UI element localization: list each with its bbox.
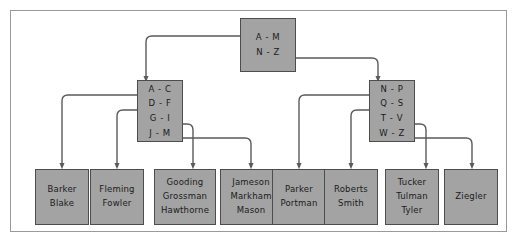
root-key-0: A - M (256, 30, 281, 45)
right-key-1: Q - S (380, 96, 404, 111)
left-key-1: D - F (149, 96, 172, 111)
left-key-3: J - M (149, 126, 170, 141)
right-key-0: N - P (381, 82, 404, 97)
internal-node-right[interactable]: N - P Q - S T - V W - Z (369, 80, 415, 142)
root-node[interactable]: A - M N - Z (240, 18, 296, 72)
leaf3-entry-2: Hawthorne (161, 204, 209, 218)
leaf4-entry-1: Markham (230, 190, 271, 204)
leaf4-entry-2: Mason (237, 204, 266, 218)
leaf1-entry-1: Blake (50, 197, 74, 211)
leaf5-entry-1: Portman (280, 197, 317, 211)
leaf-node-2[interactable]: Fleming Fowler (90, 169, 144, 225)
btree-diagram: A - M N - Z A - C D - F G - I J - M N - … (0, 0, 520, 248)
leaf-node-6[interactable]: Roberts Smith (324, 169, 378, 225)
leaf6-entry-1: Smith (338, 197, 364, 211)
leaf-node-3[interactable]: Gooding Grossman Hawthorne (154, 169, 216, 225)
leaf4-entry-0: Jameson (232, 176, 270, 190)
leaf2-entry-1: Fowler (102, 197, 131, 211)
root-key-1: N - Z (256, 45, 280, 60)
leaf1-entry-0: Barker (47, 183, 76, 197)
leaf7-entry-0: Tucker (398, 176, 427, 190)
leaf-node-5[interactable]: Parker Portman (272, 169, 326, 225)
leaf7-entry-2: Tyler (402, 204, 423, 218)
leaf8-entry-0: Ziegler (455, 190, 486, 204)
leaf5-entry-0: Parker (285, 183, 313, 197)
leaf2-entry-0: Fleming (99, 183, 134, 197)
internal-node-left[interactable]: A - C D - F G - I J - M (137, 80, 183, 142)
leaf3-entry-0: Gooding (167, 176, 204, 190)
leaf3-entry-1: Grossman (163, 190, 207, 204)
leaf-node-1[interactable]: Barker Blake (35, 169, 89, 225)
leaf-node-8[interactable]: Ziegler (444, 169, 498, 225)
leaf6-entry-0: Roberts (334, 183, 368, 197)
right-key-2: T - V (381, 111, 403, 126)
left-key-0: A - C (148, 82, 171, 97)
left-key-2: G - I (150, 111, 171, 126)
right-key-3: W - Z (379, 126, 405, 141)
leaf7-entry-1: Tulman (396, 190, 428, 204)
leaf-node-7[interactable]: Tucker Tulman Tyler (385, 169, 439, 225)
